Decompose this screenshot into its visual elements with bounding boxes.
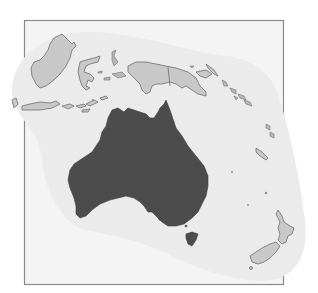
kangaroo-island (159, 218, 162, 221)
oceania-locator-map (0, 0, 318, 293)
small-isle-dot (247, 204, 249, 206)
bass-strait-isle (185, 225, 187, 227)
stewart-island (250, 267, 253, 270)
lord-howe-island (231, 171, 233, 173)
norfolk-island (265, 192, 267, 194)
small-isle-dot (92, 99, 94, 101)
